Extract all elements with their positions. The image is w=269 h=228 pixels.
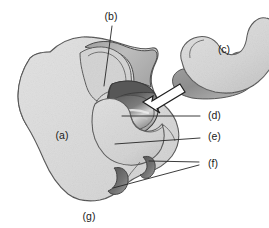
figure-container: (a) (b) (c) (d) (e) (f) (g) <box>0 0 269 228</box>
label-g: (g) <box>83 210 96 222</box>
body-c-group <box>173 18 269 99</box>
label-c: (c) <box>218 43 230 55</box>
label-e: (e) <box>208 130 221 142</box>
label-b: (b) <box>105 10 118 22</box>
anatomical-diagram: (a) (b) (c) (d) (e) (f) (g) <box>0 0 269 228</box>
label-d: (d) <box>208 109 221 121</box>
label-f: (f) <box>208 157 218 169</box>
body-c-main <box>181 18 269 93</box>
label-a: (a) <box>56 129 69 141</box>
